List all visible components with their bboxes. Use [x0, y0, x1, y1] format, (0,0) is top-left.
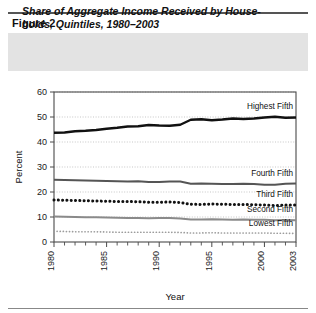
series-line-fourth-fifth — [54, 180, 296, 185]
series-label-lowest-fifth: Lowest Fifth — [249, 219, 294, 228]
title-band — [8, 33, 308, 71]
series-label-highest-fifth: Highest Fifth — [247, 102, 293, 111]
ytick-label-50: 50 — [37, 112, 47, 122]
figure-title-line-2: holds, Quintiles, 1980–2003 — [22, 18, 159, 30]
xtick-label-1980: 1980 — [46, 251, 56, 271]
series-line-lowest-fifth — [54, 231, 296, 233]
xtick-label-2003: 2003 — [288, 251, 298, 271]
figure-container: Figure 2 Share of Aggregate Income Recei… — [0, 0, 316, 313]
y-axis-title: Percent — [13, 150, 24, 183]
series-label-second-fifth: Second Fifth — [247, 205, 293, 214]
chart-area: 0102030405060198019851990199520002003Per… — [8, 78, 308, 303]
series-label-fourth-fifth: Fourth Fifth — [251, 169, 293, 178]
ytick-label-0: 0 — [42, 237, 47, 247]
line-chart: 0102030405060198019851990199520002003Per… — [8, 78, 308, 303]
xtick-label-2000: 2000 — [256, 251, 266, 271]
xtick-label-1985: 1985 — [99, 251, 109, 271]
ytick-label-40: 40 — [37, 137, 47, 147]
figure-title-line-1: Share of Aggregate Income Received by Ho… — [22, 5, 261, 17]
figure-title: Share of Aggregate Income Received by Ho… — [22, 5, 292, 31]
ytick-label-60: 60 — [37, 87, 47, 97]
ytick-label-20: 20 — [37, 187, 47, 197]
series-line-highest-fifth — [54, 117, 296, 133]
ytick-label-10: 10 — [37, 212, 47, 222]
footer-rule — [8, 308, 308, 309]
xtick-label-1990: 1990 — [151, 251, 161, 271]
ytick-label-30: 30 — [37, 162, 47, 172]
xtick-label-1995: 1995 — [204, 251, 214, 271]
x-axis-title: Year — [165, 291, 184, 302]
series-label-third-fifth: Third Fifth — [256, 190, 293, 199]
